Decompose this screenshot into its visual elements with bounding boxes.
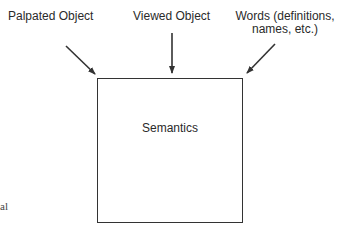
arrow-palpated [66,46,95,74]
arrow-words [247,44,275,73]
semantics-label: Semantics [98,121,242,135]
semantics-box: Semantics [97,78,243,223]
cropped-text-fragment: al [0,200,8,212]
